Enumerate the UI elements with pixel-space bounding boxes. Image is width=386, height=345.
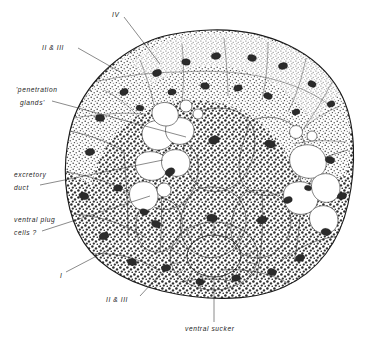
label-ii-iii-bottom: II & III [106,296,128,303]
label-ventral-plug-cells-line2: cells ? [14,229,37,236]
body-section [55,22,365,312]
label-penetration-glands-line1: 'penetration [16,86,57,94]
label-ventral-sucker: ventral sucker [185,325,235,332]
section-drawing: IV II & III 'penetration glands' excreto… [0,0,386,345]
label-iv: IV [112,11,119,18]
label-ventral-plug-cells-line1: ventral plug [14,216,55,224]
label-excretory-duct-line1: excretory [14,171,47,179]
label-ii-iii-top: II & III [42,44,64,51]
label-excretory-duct-line2: duct [14,184,29,191]
label-penetration-glands-line2: glands' [20,99,45,107]
label-i: I [60,272,62,279]
leader-ii-iii-top [78,48,122,73]
figure-panel: IV II & III 'penetration glands' excreto… [0,0,386,345]
